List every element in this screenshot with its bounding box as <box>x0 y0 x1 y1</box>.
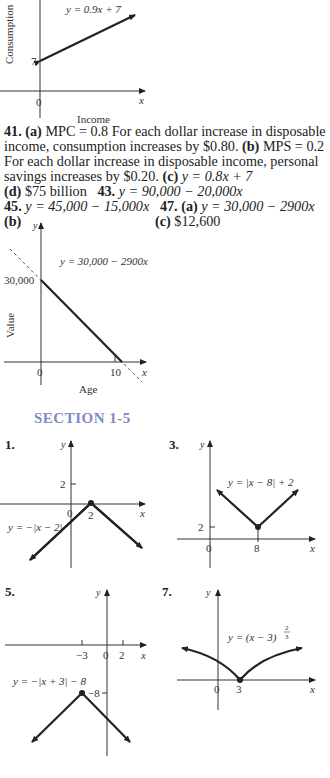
x-tick-0: 0 <box>103 649 109 661</box>
exponent-numerator: 2 <box>285 624 289 632</box>
problem-5-graph: y −3 0 2 x y = −|x + 3| − 8 −8 <box>0 584 165 778</box>
x-var: x <box>140 649 146 661</box>
y-var: y <box>199 439 205 450</box>
x-tick-2: 2 <box>88 509 94 521</box>
x-axis-var: x <box>138 94 144 106</box>
x-tick-3: 3 <box>236 683 242 695</box>
value-equation: y = 30,000 − 2900x <box>59 255 148 267</box>
answer-41d-43-line: (d) $75 billion 43. y = 90,000 − 20,000x <box>4 184 328 199</box>
section-title: SECTION 1-5 <box>34 410 131 427</box>
origin-label: 0 <box>206 542 212 554</box>
answer-41-line: 41. (a) MPC = 0.8 For each dollar increa… <box>4 124 328 139</box>
x-var: x <box>309 683 315 695</box>
x-axis-label: Age <box>79 383 97 395</box>
problem-7-equation: y = (x − 3) <box>227 631 277 644</box>
x-tick-neg3: −3 <box>76 649 88 661</box>
consumption-graph: y = 0.9x + 7 7 0 x Income Consumption <box>0 0 330 125</box>
origin-label: 0 <box>36 96 42 108</box>
x-var: x <box>309 542 315 554</box>
y-tick-30000: 30,000 <box>4 274 35 286</box>
y-var: y <box>32 220 38 231</box>
problem-3-equation: y = |x − 8| + 2 <box>227 476 294 488</box>
y-var: y <box>95 587 101 598</box>
x-tick-2: 2 <box>119 649 125 661</box>
answer-41b-cont: For each dollar increase in disposable i… <box>4 154 328 169</box>
y-tick-7: 7 <box>31 55 37 67</box>
y-axis-label: Consumption <box>3 4 15 64</box>
y-tick-neg8: −8 <box>88 687 100 699</box>
value-age-graph: y y = 30,000 − 2900x 30,000 0 10 x Age V… <box>0 215 200 385</box>
answer-41c-line: savings increases by $0.20. (c) y = 0.8x… <box>4 169 328 184</box>
x-tick-8: 8 <box>254 542 260 554</box>
problem-3-graph: y y = |x − 8| + 2 2 0 8 x <box>165 438 330 568</box>
problem-1-graph: y 2 0 2 x y = −|x − 2| <box>0 438 165 568</box>
y-tick-2: 2 <box>198 521 204 533</box>
x-var: x <box>139 507 145 519</box>
problem-1-equation: y = −|x − 2| <box>7 521 63 533</box>
origin-label: 0 <box>67 507 73 519</box>
answer-45-47-line: 45. y = 45,000 − 15,000x 47. (a) y = 30,… <box>4 199 328 214</box>
consumption-equation: y = 0.9x + 7 <box>65 3 121 15</box>
origin-label: 0 <box>37 366 43 378</box>
y-var: y <box>205 587 211 598</box>
y-var: y <box>60 439 66 450</box>
problem-7-graph: y y = (x − 3) 2 3 0 3 x <box>165 584 330 724</box>
answer-41b-line: income, consumption increases by $0.80. … <box>4 139 328 154</box>
x-tick-10: 10 <box>110 366 122 378</box>
y-axis-label: Value <box>4 313 16 338</box>
y-tick-2: 2 <box>60 478 66 490</box>
origin-label: 0 <box>214 683 220 695</box>
problem-5-equation: y = −|x + 3| − 8 <box>12 675 87 687</box>
x-var: x <box>141 366 147 378</box>
exponent-denominator: 3 <box>285 633 289 641</box>
